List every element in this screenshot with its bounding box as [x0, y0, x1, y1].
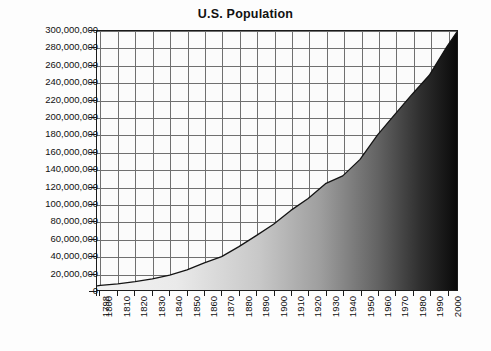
y-axis-tick-mark: [89, 169, 96, 170]
y-axis-tick-mark: [89, 187, 96, 188]
y-axis-tick-label: 120,000,000: [12, 182, 98, 192]
x-axis-tick-label: 1860: [208, 296, 219, 317]
y-axis-tick-label: 160,000,000: [12, 147, 98, 157]
x-axis-tick-mark: [448, 291, 449, 296]
x-axis-tick-label: 1930: [330, 296, 341, 317]
x-axis-tick-label: 1840: [173, 296, 184, 317]
x-axis-tick-label: 1810: [121, 296, 132, 317]
y-axis-tick-mark: [89, 134, 96, 135]
y-axis-tick-mark: [89, 30, 96, 31]
population-line: [97, 31, 457, 290]
y-axis-tick-mark: [89, 274, 96, 275]
y-axis-tick-label: 40,000,000: [12, 251, 98, 261]
y-axis-tick-label: 100,000,000: [12, 199, 98, 209]
y-axis-tick-mark: [89, 221, 96, 222]
y-axis-tick-mark: [89, 256, 96, 257]
x-axis-tick-label: 1900: [278, 296, 289, 317]
x-axis-tick-label: 1890: [260, 296, 271, 317]
us-population-chart: U.S. Population 300,000,000280,000,00: [0, 0, 491, 351]
y-axis-tick-mark: [89, 65, 96, 66]
y-axis-tick-mark: [89, 100, 96, 101]
x-axis-tick-label: 1960: [382, 296, 393, 317]
y-axis-tick-label: 260,000,000: [12, 60, 98, 70]
x-axis-tick-mark: [239, 291, 240, 296]
x-axis-tick-mark: [152, 291, 153, 296]
x-axis-tick-mark: [378, 291, 379, 296]
x-axis-tick-label: 1870: [225, 296, 236, 317]
x-axis-tick-mark: [343, 291, 344, 296]
x-axis-tick-mark: [96, 291, 97, 296]
y-axis-tick-label: 60,000,000: [12, 234, 98, 244]
y-axis-tick-label: 0: [12, 286, 98, 296]
x-axis-tick-mark: [187, 291, 188, 296]
x-axis-tick-mark: [395, 291, 396, 296]
y-axis-tick-label: 220,000,000: [12, 95, 98, 105]
x-axis-tick-mark: [274, 291, 275, 296]
y-axis-tick-label: 240,000,000: [12, 77, 98, 87]
y-axis-tick-label: 300,000,000: [12, 25, 98, 35]
chart-title: U.S. Population: [0, 7, 491, 21]
x-axis-tick-mark: [413, 291, 414, 296]
y-axis-tick-mark: [89, 239, 96, 240]
x-axis-tick-label: 1800: [103, 296, 114, 317]
x-axis-tick-label: 2000: [452, 296, 463, 317]
x-axis-tick-mark: [430, 291, 431, 296]
x-axis-tick-mark: [326, 291, 327, 296]
y-axis-tick-mark: [89, 152, 96, 153]
x-axis-tick-mark: [99, 291, 100, 296]
x-axis-tick-mark: [256, 291, 257, 296]
y-axis-tick-label: 80,000,000: [12, 216, 98, 226]
x-axis-tick-mark: [308, 291, 309, 296]
y-axis-tick-mark: [89, 204, 96, 205]
x-axis-tick-label: 1950: [365, 296, 376, 317]
y-axis-tick-mark: [89, 117, 96, 118]
y-axis-tick-mark: [89, 291, 96, 292]
x-axis-tick-label: 1970: [399, 296, 410, 317]
x-axis-tick-label: 1980: [417, 296, 428, 317]
x-axis-tick-label: 1910: [295, 296, 306, 317]
y-axis-tick-label: 180,000,000: [12, 129, 98, 139]
x-axis-tick-mark: [291, 291, 292, 296]
plot-area: [96, 30, 458, 291]
x-axis-tick-mark: [117, 291, 118, 296]
x-axis-tick-mark: [169, 291, 170, 296]
x-axis-tick-label: 1920: [312, 296, 323, 317]
x-axis-tick-label: 1940: [347, 296, 358, 317]
y-axis-tick-label: 140,000,000: [12, 164, 98, 174]
x-axis-tick-mark: [361, 291, 362, 296]
x-axis-tick-mark: [204, 291, 205, 296]
x-axis-tick-mark: [134, 291, 135, 296]
x-axis-tick-label: 1880: [243, 296, 254, 317]
x-axis-tick-label: 1990: [434, 296, 445, 317]
x-axis-tick-label: 1850: [191, 296, 202, 317]
y-axis-tick-label: 280,000,000: [12, 42, 98, 52]
y-axis-tick-label: 20,000,000: [12, 269, 98, 279]
y-axis-tick-label: 200,000,000: [12, 112, 98, 122]
x-axis-tick-label: 1820: [138, 296, 149, 317]
x-axis-tick-mark: [221, 291, 222, 296]
y-axis-tick-mark: [89, 82, 96, 83]
y-axis-tick-mark: [89, 47, 96, 48]
x-axis-tick-label: 1830: [156, 296, 167, 317]
